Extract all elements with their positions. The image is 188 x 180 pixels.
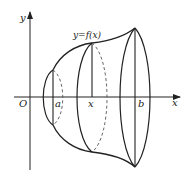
y-axis-label: y: [19, 12, 26, 23]
x-axis-label: x: [172, 97, 178, 108]
a-label: a: [55, 98, 61, 109]
x-label: x: [88, 98, 94, 109]
solid-of-revolution-diagram: y x O a x b y=f(x): [0, 0, 188, 180]
origin-label: O: [19, 98, 27, 109]
b-label: b: [138, 98, 144, 109]
curve-label: y=f(x): [72, 30, 102, 40]
